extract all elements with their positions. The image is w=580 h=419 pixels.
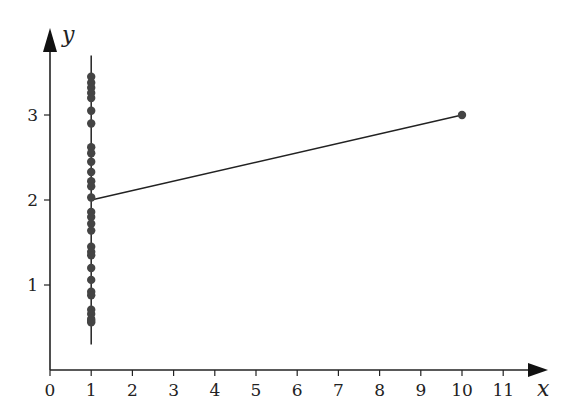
data-point [87, 226, 95, 234]
data-point [87, 107, 95, 115]
chart: 01234567891011123xy [0, 0, 580, 419]
x-tick-label: 0 [45, 380, 56, 400]
x-tick-label: 9 [415, 380, 426, 400]
line-segment [91, 115, 462, 200]
data-point [87, 291, 95, 299]
x-tick-label: 6 [292, 380, 303, 400]
data-point [87, 168, 95, 176]
data-series [87, 56, 466, 345]
axes: 01234567891011123xy [27, 22, 550, 401]
plot-area: 01234567891011123xy [0, 0, 580, 419]
x-axis-arrow-icon [528, 363, 548, 377]
x-tick-label: 5 [251, 380, 262, 400]
x-tick-label: 4 [209, 380, 220, 400]
y-axis-arrow-icon [43, 28, 57, 52]
data-point [87, 251, 95, 259]
x-tick-label: 7 [333, 380, 344, 400]
data-point [458, 111, 466, 119]
y-axis-label: y [61, 22, 75, 47]
x-tick-label: 8 [374, 380, 385, 400]
data-point [87, 94, 95, 102]
y-tick-label: 3 [27, 105, 38, 125]
x-tick-label: 10 [451, 380, 473, 400]
data-point [87, 158, 95, 166]
data-point [87, 276, 95, 284]
data-point [87, 193, 95, 201]
x-axis-label: x [537, 376, 550, 401]
y-tick-label: 2 [27, 190, 38, 210]
x-tick-label: 2 [127, 380, 138, 400]
x-tick-label: 3 [168, 380, 179, 400]
x-tick-label: 11 [492, 380, 514, 400]
y-tick-label: 1 [27, 275, 38, 295]
data-point [87, 119, 95, 127]
data-point [87, 317, 95, 325]
data-point [87, 182, 95, 190]
x-tick-label: 1 [86, 380, 97, 400]
data-point [87, 149, 95, 157]
data-point [87, 264, 95, 272]
